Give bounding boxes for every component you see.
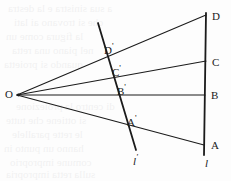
ray-OA (17, 95, 204, 145)
projection-rays-group (17, 15, 206, 145)
line-label-line-l-prime-prime-mark: ' (136, 152, 138, 162)
geometry-figure: a sua sinistra e la destrache si trovano… (0, 0, 231, 181)
point-label-B-prime: B' (117, 82, 126, 97)
point-label-B: B (211, 90, 218, 101)
point-label-D: D (212, 11, 220, 22)
point-label-O: O (5, 89, 13, 100)
point-label-D-prime: D' (104, 41, 114, 56)
line-l (204, 13, 206, 155)
point-label-D-prime-prime-mark: ' (112, 41, 114, 51)
point-label-C-prime: C' (112, 63, 121, 78)
point-label-C-prime-prime-mark: ' (119, 63, 121, 73)
point-label-B-prime-prime-mark: ' (124, 82, 126, 92)
point-label-A-prime-prime-mark: ' (135, 113, 137, 123)
point-label-A: A (211, 140, 219, 151)
line-label-line-l-prime: l' (133, 152, 138, 167)
line-label-line-l: l (205, 158, 208, 169)
vertex-dot-O (17, 94, 20, 97)
point-label-C: C (212, 57, 219, 68)
transversal-lines-group (98, 13, 206, 155)
vertex-marker-group (17, 94, 20, 97)
point-label-A-prime: A' (127, 113, 137, 128)
figure-canvas (0, 0, 231, 181)
